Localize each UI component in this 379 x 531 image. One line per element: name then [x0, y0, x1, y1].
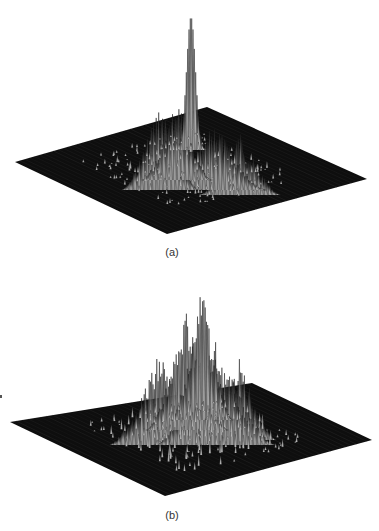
figure-panel-b: (b)	[0, 0, 379, 531]
surface-mesh	[90, 297, 299, 471]
scan-artifact-mark	[0, 395, 2, 398]
surface-plot-b	[0, 0, 379, 531]
panel-label-b: (b)	[165, 509, 178, 521]
